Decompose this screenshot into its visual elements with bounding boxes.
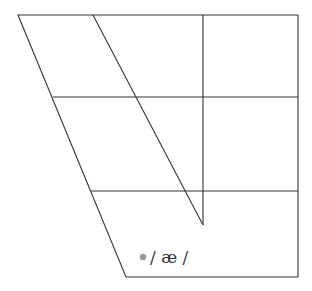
vowel-dot-ae — [140, 254, 146, 260]
trapezoid-outline — [18, 15, 298, 277]
vowel-trapezoid-diagram: / æ / — [0, 0, 312, 291]
vowel-label-ae: / æ / — [150, 247, 189, 267]
central-diagonal-line — [93, 15, 203, 225]
